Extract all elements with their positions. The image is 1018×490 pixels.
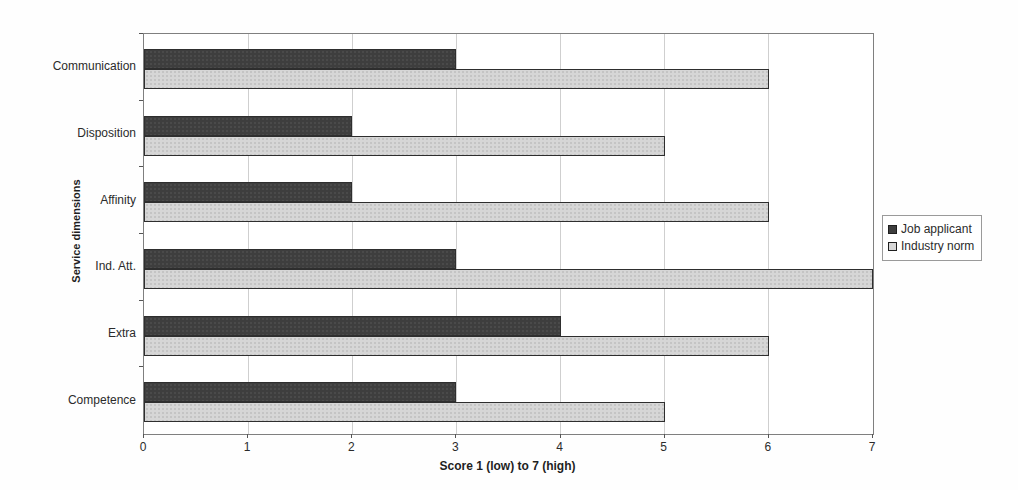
x-axis-tick bbox=[247, 434, 248, 438]
x-axis-tick bbox=[664, 434, 665, 438]
bar-industry-norm bbox=[144, 402, 665, 422]
legend-entry-job-applicant: Job applicant bbox=[888, 221, 974, 238]
gridline bbox=[560, 34, 561, 434]
bar-industry-norm bbox=[144, 336, 769, 356]
bar-industry-norm bbox=[144, 202, 769, 222]
x-tick-label: 6 bbox=[756, 440, 780, 454]
bar-job-applicant bbox=[144, 182, 352, 202]
category-label: Ind. Att. bbox=[18, 259, 136, 273]
bar-job-applicant bbox=[144, 249, 456, 269]
y-axis-tick bbox=[139, 166, 143, 167]
y-axis-tick bbox=[139, 33, 143, 34]
x-tick-label: 4 bbox=[548, 440, 572, 454]
category-label: Extra bbox=[18, 326, 136, 340]
legend: Job applicant Industry norm bbox=[882, 215, 982, 261]
gridline bbox=[768, 34, 769, 434]
x-axis-tick bbox=[143, 434, 144, 438]
legend-entry-industry-norm: Industry norm bbox=[888, 238, 974, 255]
plot-area bbox=[143, 33, 874, 435]
y-axis-tick bbox=[139, 366, 143, 367]
x-tick-label: 0 bbox=[131, 440, 155, 454]
x-axis-tick bbox=[872, 434, 873, 438]
y-axis-tick bbox=[139, 100, 143, 101]
x-axis-title: Score 1 (low) to 7 (high) bbox=[143, 459, 872, 473]
bar-job-applicant bbox=[144, 316, 561, 336]
y-axis-tick bbox=[139, 233, 143, 234]
category-label: Competence bbox=[18, 393, 136, 407]
x-tick-label: 2 bbox=[339, 440, 363, 454]
bar-job-applicant bbox=[144, 116, 352, 136]
legend-label-industry-norm: Industry norm bbox=[901, 238, 974, 255]
gridline bbox=[248, 34, 249, 434]
bar-industry-norm bbox=[144, 269, 873, 289]
x-axis-tick bbox=[560, 434, 561, 438]
gridline bbox=[456, 34, 457, 434]
y-axis-tick bbox=[139, 300, 143, 301]
bar-job-applicant bbox=[144, 49, 456, 69]
x-tick-label: 1 bbox=[235, 440, 259, 454]
bar-industry-norm bbox=[144, 69, 769, 89]
x-tick-label: 5 bbox=[652, 440, 676, 454]
x-axis-tick bbox=[455, 434, 456, 438]
x-axis-tick bbox=[768, 434, 769, 438]
legend-swatch-dark-icon bbox=[888, 225, 897, 234]
gridline bbox=[352, 34, 353, 434]
category-label: Communication bbox=[18, 59, 136, 73]
gridline bbox=[664, 34, 665, 434]
category-label: Disposition bbox=[18, 126, 136, 140]
figure: Service dimensions CommunicationDisposit… bbox=[0, 0, 1018, 490]
x-tick-label: 3 bbox=[443, 440, 467, 454]
category-label: Affinity bbox=[18, 193, 136, 207]
bar-job-applicant bbox=[144, 382, 456, 402]
legend-swatch-light-icon bbox=[888, 242, 897, 251]
x-tick-label: 7 bbox=[860, 440, 884, 454]
x-axis-tick bbox=[351, 434, 352, 438]
legend-label-job-applicant: Job applicant bbox=[901, 221, 972, 238]
bar-industry-norm bbox=[144, 136, 665, 156]
